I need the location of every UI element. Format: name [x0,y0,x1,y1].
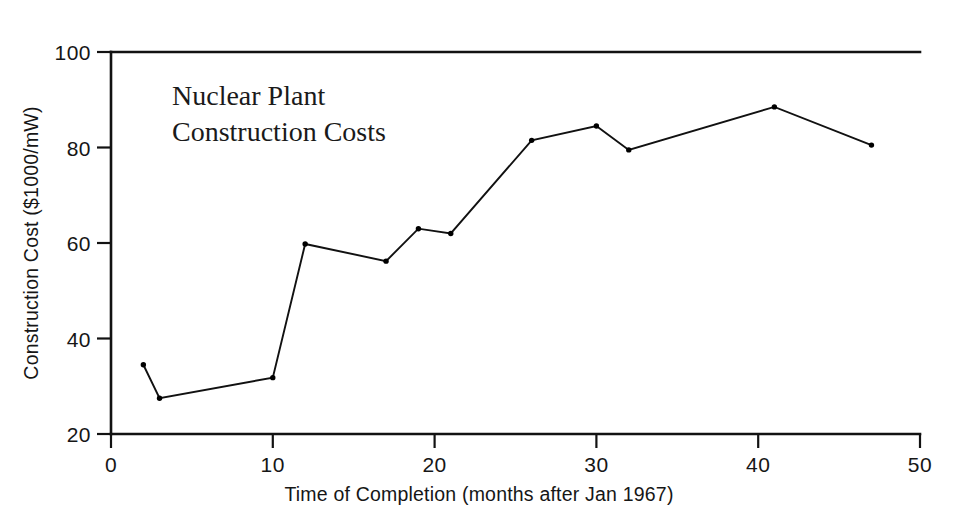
y-tick-label-20: 20 [67,423,91,446]
data-point [529,138,534,143]
x-tick-label-20: 20 [422,453,446,476]
data-point [869,142,874,147]
series-markers [141,104,875,401]
data-point [270,375,275,380]
chart-annotation-line-2: Construction Costs [172,116,386,147]
y-axis-title: Construction Cost ($1000/mW) [20,106,42,379]
data-point [302,241,307,246]
x-axis-title: Time of Completion (months after Jan 196… [284,483,673,505]
nuclear-plant-construction-costs-chart: 100 80 60 40 20 0 10 20 30 40 50 Time of… [0,0,965,519]
x-tick-label-0: 0 [105,453,117,476]
chart-annotation-line-1: Nuclear Plant [172,80,325,111]
data-point [157,395,162,400]
x-axis-ticks [111,434,920,448]
y-tick-label-60: 60 [67,232,91,255]
data-point [141,362,146,367]
x-tick-label-30: 30 [584,453,608,476]
data-point [448,231,453,236]
y-tick-label-40: 40 [67,328,91,351]
y-tick-label-80: 80 [67,137,91,160]
series-polyline [143,107,871,398]
data-point [594,123,599,128]
chart-svg: 100 80 60 40 20 0 10 20 30 40 50 Time of… [0,0,965,519]
y-tick-label-100: 100 [54,41,91,64]
data-point [626,147,631,152]
x-tick-label-40: 40 [746,453,770,476]
data-point [772,104,777,109]
data-series-construction-cost [141,104,875,401]
y-axis-ticks [97,52,111,434]
x-tick-label-50: 50 [908,453,932,476]
chart-page: 100 80 60 40 20 0 10 20 30 40 50 Time of… [0,0,965,519]
x-tick-label-10: 10 [261,453,285,476]
data-point [416,226,421,231]
data-point [383,258,388,263]
